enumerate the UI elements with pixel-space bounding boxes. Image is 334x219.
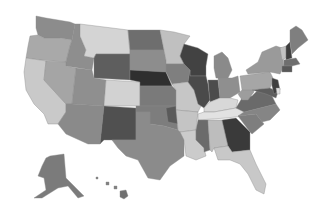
state-oh: Ohio — [218, 76, 240, 98]
state-mt: Montana — [80, 24, 130, 58]
state-wy: Wyoming — [94, 54, 130, 80]
state-ny: New York — [246, 46, 284, 74]
state-wa: Washington — [36, 16, 75, 40]
state-pa: Pennsylvania — [240, 72, 274, 90]
state-hi3: Hawaii (Maui) — [114, 186, 117, 189]
state-nm: New Mexico — [100, 106, 136, 144]
state-fl: Florida — [214, 146, 266, 194]
state-hi4: Hawaii (Big Island) — [120, 190, 128, 199]
state-ar: Arkansas — [176, 110, 198, 132]
state-me: Maine — [290, 26, 308, 54]
state-mi: Michigan — [214, 52, 232, 78]
us-states-map: WashingtonOregonCaliforniaIdahoNevadaMon… — [0, 0, 334, 219]
state-ak: Alaska — [34, 154, 84, 198]
state-hi2: Hawaii (Oahu) — [106, 182, 109, 185]
state-sd: South Dakota — [130, 50, 166, 72]
map-canvas: WashingtonOregonCaliforniaIdahoNevadaMon… — [0, 0, 334, 219]
state-co: Colorado — [104, 80, 140, 106]
state-hi1: Hawaii (Kauai) — [96, 177, 98, 179]
state-nd: North Dakota — [128, 30, 164, 50]
state-ks: Kansas — [140, 86, 176, 106]
state-or: Oregon — [26, 35, 72, 62]
state-ct: Connecticut — [282, 66, 292, 72]
